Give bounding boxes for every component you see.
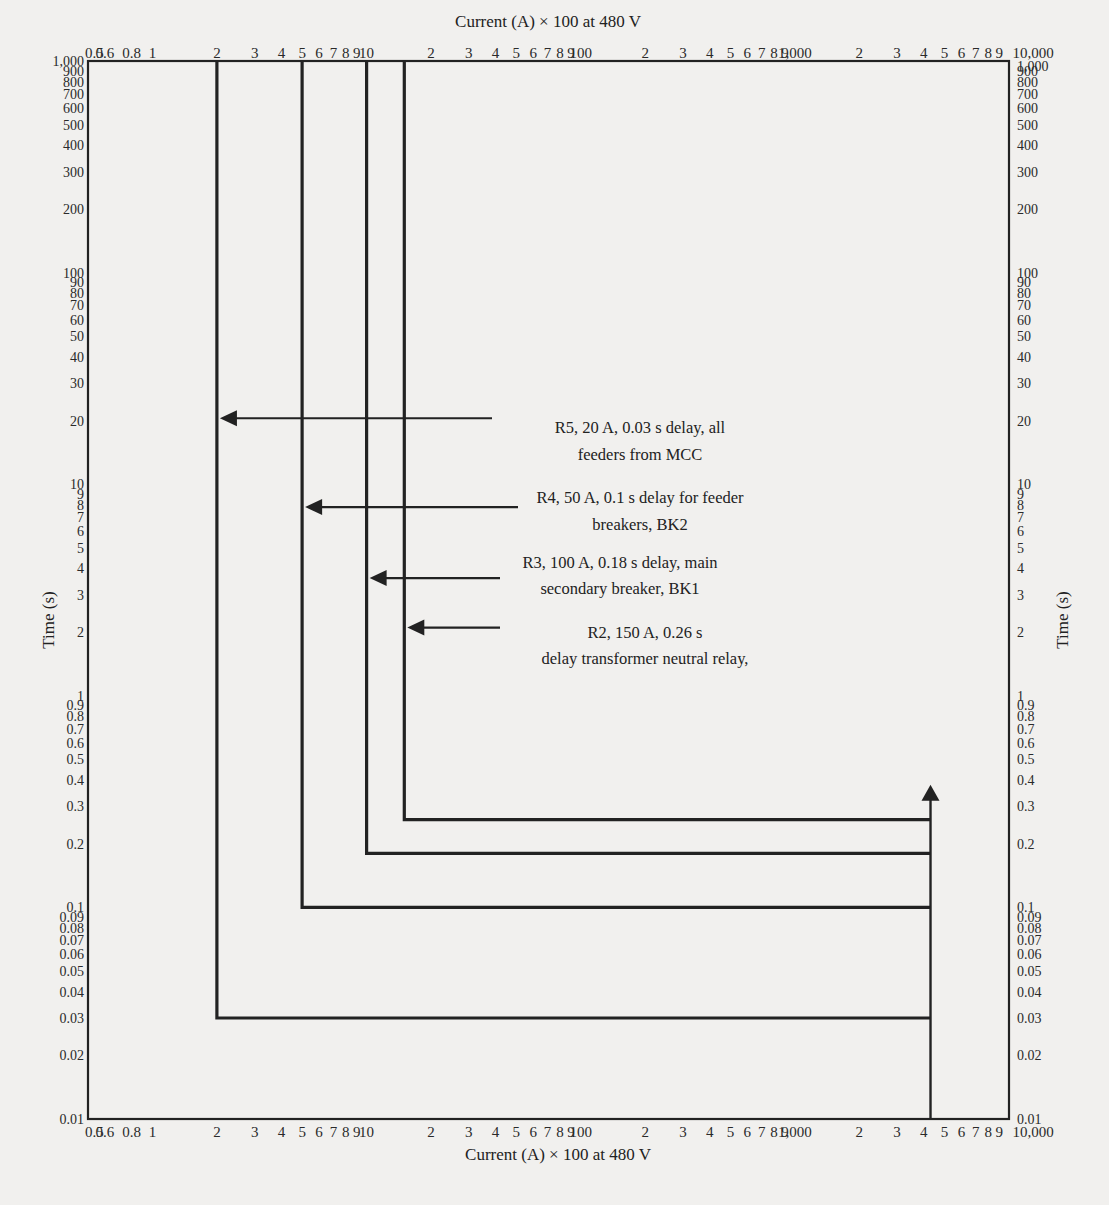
x-tick-label: 0.8	[122, 45, 141, 61]
annotation-text-r4: R4, 50 A, 0.1 s delay for feeder	[536, 488, 744, 507]
y-tick-label-right: 0.6	[1017, 736, 1035, 751]
y-tick-label-left: 0.01	[60, 1112, 85, 1127]
x-tick-label: 8	[556, 45, 564, 61]
x-tick-label: 4	[920, 1124, 928, 1140]
x-tick-label: 1,000	[778, 1124, 812, 1140]
x-tick-label: 10	[359, 45, 374, 61]
x-tick-label: 7	[330, 1124, 338, 1140]
y-tick-label-left: 0.3	[67, 799, 85, 814]
x-tick-label: 5	[298, 45, 306, 61]
relay-annotations: R5, 20 A, 0.03 s delay, allfeeders from …	[220, 410, 749, 668]
x-tick-label: 6	[958, 45, 966, 61]
left-axis-title: Time (s)	[39, 591, 58, 648]
x-tick-label: 5	[727, 45, 735, 61]
y-tick-label-left: 20	[70, 414, 84, 429]
y-tick-label-right: 400	[1017, 138, 1038, 153]
x-tick-label: 3	[679, 45, 687, 61]
relay-curves	[217, 61, 931, 1018]
x-tick-label: 7	[544, 1124, 552, 1140]
x-tick-label: 1	[149, 1124, 157, 1140]
y-tick-label-right: 6	[1017, 524, 1024, 539]
y-tick-label-right: 7	[1017, 510, 1024, 525]
y-tick-label-left: 0.02	[60, 1048, 85, 1063]
x-tick-label: 8	[984, 45, 992, 61]
left-y-tick-labels: 1,00090080070060050040030020010090807060…	[53, 54, 85, 1127]
curve-r4	[302, 61, 930, 907]
y-tick-label-right: 0.7	[1017, 722, 1035, 737]
x-tick-label: 4	[278, 1124, 286, 1140]
chart-canvas: Current (A) × 100 at 480 V Current (A) ×…	[0, 0, 1109, 1205]
y-tick-label-right: 0.5	[1017, 752, 1035, 767]
y-tick-label-left: 300	[63, 165, 84, 180]
x-tick-label: 3	[893, 45, 901, 61]
arrow-left-icon	[220, 410, 237, 426]
arrow-left-icon	[370, 570, 387, 586]
y-tick-label-left: 7	[77, 510, 84, 525]
x-tick-label: 7	[972, 45, 980, 61]
x-tick-label: 7	[544, 45, 552, 61]
y-tick-label-left: 200	[63, 202, 84, 217]
x-tick-label: 10	[359, 1124, 374, 1140]
y-tick-label-right: 0.03	[1017, 1011, 1042, 1026]
x-tick-label: 0.8	[122, 1124, 141, 1140]
y-tick-label-left: 40	[70, 350, 84, 365]
y-tick-label-right: 0.3	[1017, 799, 1035, 814]
x-tick-label: 7	[330, 45, 338, 61]
x-tick-label: 100	[569, 1124, 592, 1140]
y-tick-label-left: 3	[77, 588, 84, 603]
y-tick-label-left: 0.5	[67, 752, 85, 767]
y-tick-label-right: 200	[1017, 202, 1038, 217]
x-tick-label: 100	[569, 45, 592, 61]
y-tick-label-right: 50	[1017, 329, 1031, 344]
x-tick-label: 5	[513, 1124, 521, 1140]
fault-current-arrow	[922, 785, 940, 1118]
x-tick-label: 2	[856, 1124, 864, 1140]
y-tick-label-right: 70	[1017, 298, 1031, 313]
x-tick-label: 3	[679, 1124, 687, 1140]
top-x-tick-labels: 0.50.60.81234567891023456789100234567891…	[85, 45, 1054, 61]
arrow-up-icon	[922, 785, 940, 801]
x-tick-label: 6	[958, 1124, 966, 1140]
x-tick-label: 4	[278, 45, 286, 61]
x-tick-label: 6	[744, 45, 752, 61]
x-tick-label: 6	[315, 45, 323, 61]
x-tick-label: 4	[492, 1124, 500, 1140]
x-tick-label: 7	[972, 1124, 980, 1140]
y-tick-label-right: 600	[1017, 101, 1038, 116]
x-tick-label: 5	[298, 1124, 306, 1140]
right-y-tick-labels: 1,00090080070060050040030020010090807060…	[1017, 59, 1049, 1127]
bottom-x-tick-labels: 0.50.60.81234567891023456789100234567891…	[85, 1124, 1054, 1140]
y-tick-label-right: 0.06	[1017, 947, 1042, 962]
y-tick-label-left: 0.05	[60, 964, 85, 979]
y-tick-label-left: 700	[63, 87, 84, 102]
y-tick-label-right: 0.07	[1017, 933, 1042, 948]
x-tick-label: 4	[706, 45, 714, 61]
y-tick-label-right: 0.04	[1017, 985, 1042, 1000]
y-tick-label-left: 400	[63, 138, 84, 153]
y-tick-label-right: 700	[1017, 87, 1038, 102]
x-tick-label: 6	[529, 1124, 537, 1140]
y-tick-label-left: 2	[77, 625, 84, 640]
y-tick-label-right: 3	[1017, 588, 1024, 603]
annotation-text-r5: feeders from MCC	[578, 445, 703, 464]
y-tick-label-left: 30	[70, 376, 84, 391]
curve-r5	[217, 61, 931, 1018]
x-tick-label: 8	[770, 1124, 778, 1140]
y-tick-label-right: 300	[1017, 165, 1038, 180]
arrow-left-icon	[407, 620, 424, 636]
y-tick-label-left: 0.03	[60, 1011, 85, 1026]
y-tick-label-right: 0.02	[1017, 1048, 1042, 1063]
y-tick-label-right: 30	[1017, 376, 1031, 391]
y-tick-label-left: 0.6	[67, 736, 85, 751]
y-tick-label-left: 6	[77, 524, 84, 539]
x-tick-label: 8	[984, 1124, 992, 1140]
x-tick-label: 8	[342, 1124, 350, 1140]
x-tick-label: 9	[995, 45, 1003, 61]
y-tick-label-right: 40	[1017, 350, 1031, 365]
annotation-text-r2: delay transformer neutral relay,	[542, 649, 749, 668]
annotation-text-r5: R5, 20 A, 0.03 s delay, all	[555, 418, 726, 437]
x-tick-label: 0.6	[96, 45, 115, 61]
x-tick-label: 1,000	[778, 45, 812, 61]
x-tick-label: 1	[149, 45, 157, 61]
x-tick-label: 5	[727, 1124, 735, 1140]
